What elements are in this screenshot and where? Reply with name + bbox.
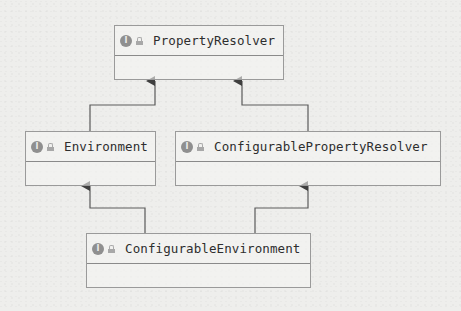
uml-node-name: PropertyResolver xyxy=(153,33,275,48)
edge-environment-to-property-resolver xyxy=(90,81,155,131)
uml-node-name: ConfigurablePropertyResolver xyxy=(214,139,428,154)
interface-icon: I xyxy=(181,141,193,153)
interface-icon: I xyxy=(31,141,43,153)
lock-icon xyxy=(197,143,205,151)
lock-icon xyxy=(108,245,116,253)
edge-configurable-environment-to-configurable-property-resolver xyxy=(255,186,308,233)
uml-node-environment[interactable]: I Environment xyxy=(25,131,156,186)
interface-icon: I xyxy=(120,35,132,47)
edge-configurable-environment-to-environment xyxy=(90,186,145,233)
uml-node-name: ConfigurableEnvironment xyxy=(125,241,300,256)
uml-node-members xyxy=(26,162,155,185)
uml-node-configurable-property-resolver[interactable]: I ConfigurablePropertyResolver xyxy=(175,131,441,186)
lock-icon xyxy=(47,143,55,151)
uml-node-name: Environment xyxy=(64,139,148,154)
uml-node-header: I PropertyResolver xyxy=(115,26,283,56)
uml-node-header: I Environment xyxy=(26,132,155,162)
uml-node-header: I ConfigurableEnvironment xyxy=(87,234,310,264)
lock-icon xyxy=(136,37,144,45)
interface-icon: I xyxy=(92,243,104,255)
uml-node-members xyxy=(87,264,310,287)
uml-node-configurable-environment[interactable]: I ConfigurableEnvironment xyxy=(86,233,311,288)
uml-node-members xyxy=(115,56,283,79)
uml-node-property-resolver[interactable]: I PropertyResolver xyxy=(114,25,284,80)
edge-configurable-property-resolver-to-property-resolver xyxy=(242,81,308,131)
uml-node-members xyxy=(176,162,440,185)
uml-node-header: I ConfigurablePropertyResolver xyxy=(176,132,440,162)
